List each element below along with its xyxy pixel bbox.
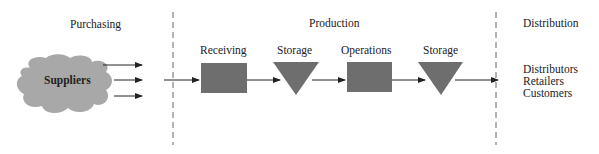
distribution-item-distributors: Distributors [523,63,578,75]
distribution-list: Distributors Retailers Customers [523,63,578,99]
distribution-item-retailers: Retailers [523,75,578,87]
storage-triangle-2 [418,62,463,95]
suppliers-label: Suppliers [44,74,91,86]
storage-label-1: Storage [277,44,312,56]
section-purchasing-label: Purchasing [70,18,121,30]
section-distribution-label: Distribution [523,17,579,29]
storage-triangle-1 [273,62,319,95]
operations-label: Operations [341,44,391,56]
storage-label-2: Storage [423,44,458,56]
distribution-item-customers: Customers [523,87,578,99]
receiving-box [201,63,247,93]
section-production-label: Production [309,17,359,29]
receiving-label: Receiving [200,44,247,56]
operations-box [347,62,392,92]
